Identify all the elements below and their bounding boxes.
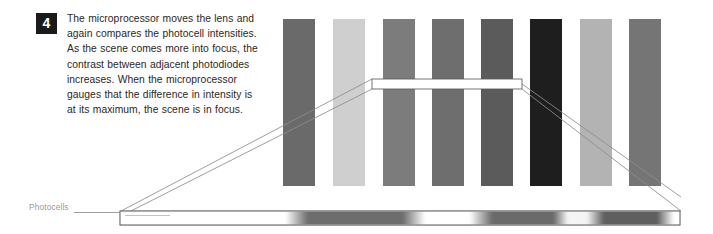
scene-bar — [580, 19, 612, 186]
focus-diagram-svg — [0, 0, 713, 234]
diagram-page: 4 The microprocessor moves the lens and … — [0, 0, 713, 234]
sensor-detail-callout — [372, 79, 522, 89]
callout-rect — [372, 79, 522, 89]
scene-bar — [481, 19, 513, 186]
scene-bar — [283, 19, 315, 186]
scene-bar — [333, 19, 365, 186]
strip-intensity-bands — [121, 212, 680, 225]
scene-bar — [383, 19, 415, 186]
scene-bar — [530, 19, 562, 186]
photocell-array-strip — [120, 211, 680, 225]
scene-bar — [629, 19, 661, 186]
scene-bar-group — [283, 19, 661, 186]
scene-bar — [432, 19, 464, 186]
